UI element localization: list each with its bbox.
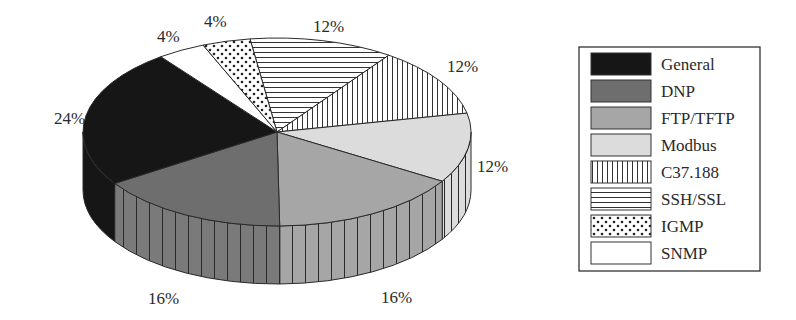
- legend-swatch-modbus: [591, 134, 651, 156]
- legend: General DNP FTP/TFTP Modbus C37.188 SSH/…: [579, 47, 760, 271]
- legend-swatch-dnp: [591, 80, 651, 102]
- legend-swatch-ftp: [591, 107, 651, 129]
- legend-label-modbus: Modbus: [661, 136, 717, 155]
- label-modbus: 12%: [477, 157, 508, 176]
- pie-chart: 24% 16% 16% 12% 12% 12% 4% 4% General DN…: [0, 0, 796, 320]
- label-igmp: 4%: [204, 12, 227, 31]
- label-general: 24%: [54, 109, 85, 128]
- legend-label-general: General: [661, 55, 715, 74]
- pie-top-face: [83, 38, 471, 226]
- legend-label-ftp: FTP/TFTP: [661, 109, 735, 128]
- legend-label-ssh: SSH/SSL: [661, 190, 726, 209]
- legend-swatch-ssh: [591, 188, 651, 210]
- label-ftp: 16%: [381, 288, 412, 307]
- legend-swatch-general: [591, 53, 651, 75]
- legend-swatch-snmp: [591, 242, 651, 264]
- legend-label-snmp: SNMP: [661, 244, 707, 263]
- legend-label-dnp: DNP: [661, 82, 695, 101]
- label-c37: 12%: [447, 57, 478, 76]
- legend-label-c37: C37.188: [661, 163, 719, 182]
- legend-label-igmp: IGMP: [661, 217, 704, 236]
- label-dnp: 16%: [148, 289, 179, 308]
- label-ssh: 12%: [313, 17, 344, 36]
- label-snmp: 4%: [157, 27, 180, 46]
- legend-swatch-c37: [591, 161, 651, 183]
- legend-swatch-igmp: [591, 215, 651, 237]
